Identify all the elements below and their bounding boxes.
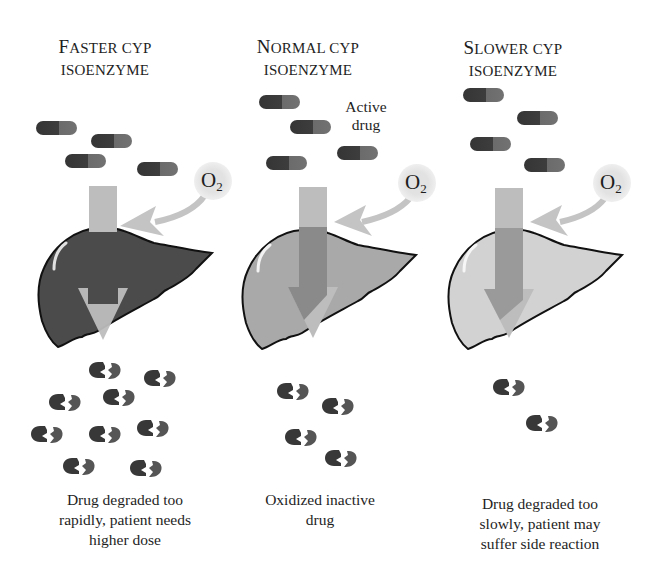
caption-line: Drug degraded too [67, 491, 183, 508]
metabolite-icon [63, 458, 95, 475]
caption-line: Drug degraded too [482, 495, 598, 512]
metabolite-icon [493, 379, 525, 396]
metabolite-icon [89, 362, 121, 379]
oxygen-subscript: 2 [216, 179, 223, 194]
caption-line: slowly, patient may [480, 515, 601, 532]
metabolite-icon [89, 426, 121, 443]
capsule-icon [259, 95, 300, 109]
capsule-icon [91, 134, 132, 148]
capsule-icon [137, 162, 178, 176]
capsule-icon [463, 88, 504, 102]
oxygen-subscript: 2 [615, 181, 622, 196]
caption-line: rapidly, patient needs [59, 511, 191, 528]
metabolite-icon [285, 429, 317, 446]
metabolite-icon [322, 398, 354, 415]
caption-line: higher dose [89, 531, 161, 548]
oxygen-symbol: O [201, 168, 216, 192]
capsule-icon [470, 137, 511, 151]
capsule-icon [65, 154, 106, 168]
capsule-icon [36, 121, 77, 135]
metabolite-icon [526, 415, 558, 432]
label-line: Active [345, 98, 386, 115]
metabolite-icon [137, 420, 169, 437]
metabolism-arrow [299, 187, 327, 227]
caption-faster: Drug degraded too rapidly, patient needs… [30, 490, 220, 550]
oxygen-subscript: 2 [420, 181, 427, 196]
caption-line: Oxidized inactive [265, 491, 375, 508]
metabolite-icon [130, 460, 162, 477]
oxygen-symbol: O [600, 170, 615, 194]
oxygen-symbol: O [405, 170, 420, 194]
metabolite-icon [325, 450, 357, 467]
panel-normal [243, 95, 437, 467]
metabolism-arrow [89, 186, 117, 232]
capsule-icon [517, 111, 558, 125]
caption-line: suffer side reaction [481, 535, 600, 552]
capsule-icon [524, 158, 565, 172]
oxygen-label-faster: O2 [201, 170, 223, 193]
diagram-artwork [0, 0, 663, 568]
capsule-icon [290, 120, 331, 134]
metabolite-icon [103, 389, 135, 406]
metabolite-icon [277, 383, 309, 400]
caption-normal: Oxidized inactive drug [245, 490, 395, 530]
oxygen-label-normal: O2 [405, 172, 427, 195]
active-drug-label: Active drug [336, 98, 396, 134]
panel-slower [449, 88, 632, 432]
metabolite-icon [31, 426, 63, 443]
label-line: drug [352, 116, 380, 133]
metabolite-icon [49, 394, 81, 411]
capsule-icon [337, 146, 378, 160]
metabolism-arrow [495, 188, 523, 228]
capsule-icon [266, 156, 307, 170]
metabolite-icon [144, 370, 176, 387]
caption-slower: Drug degraded too slowly, patient may su… [450, 494, 630, 554]
oxygen-label-slower: O2 [600, 172, 622, 195]
caption-line: drug [306, 511, 334, 528]
